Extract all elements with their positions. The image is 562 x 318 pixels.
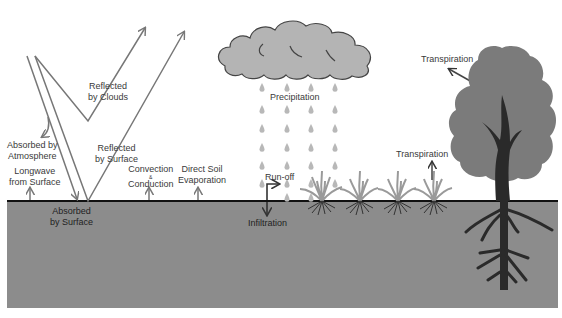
label-longwave-from-surface: Longwave from Surface	[9, 166, 61, 188]
label-line: from Surface	[9, 177, 61, 188]
label-line: Reflected	[88, 81, 128, 92]
label-absorbed-by-surface: Absorbed by Surface	[50, 206, 93, 228]
label-line: Conduction	[128, 179, 174, 190]
label-transpiration-tree: Transpiration	[421, 54, 473, 65]
label-line: Atmosphere	[7, 151, 58, 162]
label-line: Absorbed by	[7, 140, 58, 151]
label-line: by Clouds	[88, 92, 128, 103]
label-line: Absorbed	[50, 206, 93, 217]
water-energy-balance-diagram: Reflected by Clouds Absorbed by Atmosphe…	[0, 0, 562, 318]
label-convection-conduction: Convection & Conduction	[128, 164, 174, 190]
label-line: Direct Soil	[178, 164, 226, 175]
cloud	[219, 21, 371, 79]
label-precipitation: Precipitation	[270, 92, 320, 103]
label-absorbed-by-atmosphere: Absorbed by Atmosphere	[7, 140, 58, 162]
diagram-canvas	[0, 0, 562, 318]
label-direct-soil-evaporation: Direct Soil Evaporation	[178, 164, 226, 186]
label-run-off: Run-off	[265, 172, 294, 183]
label-line: Evaporation	[178, 175, 226, 186]
label-transpiration-grass: Transpiration	[396, 149, 448, 160]
label-line: by Surface	[50, 217, 93, 228]
label-reflected-by-surface: Reflected by Surface	[95, 143, 138, 165]
label-reflected-by-clouds: Reflected by Clouds	[88, 81, 128, 103]
label-line: Reflected	[95, 143, 138, 154]
label-line: Longwave	[9, 166, 61, 177]
label-infiltration: Infiltration	[248, 218, 287, 229]
